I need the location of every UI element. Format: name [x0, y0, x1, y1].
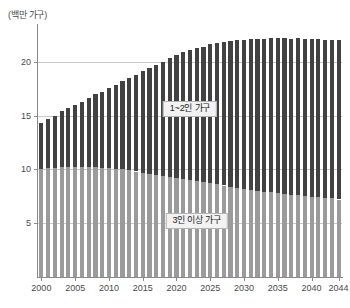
bar-segment-3plus-2034 [269, 192, 273, 277]
bar-segment-3plus-2039 [303, 196, 307, 277]
bar-2010 [107, 24, 111, 277]
bar-segment-1to2-2031 [249, 39, 253, 190]
bar-segment-3plus-2011 [114, 169, 118, 277]
x-axis-line [37, 277, 343, 278]
bar-segment-3plus-2040 [310, 197, 314, 277]
x-tick-mark-2044 [339, 278, 340, 281]
bar-2037 [289, 24, 293, 277]
bar-segment-3plus-2013 [127, 170, 131, 277]
bar-2044 [337, 24, 341, 277]
bar-2029 [235, 24, 239, 277]
bar-2042 [323, 24, 327, 277]
bar-2041 [316, 24, 320, 277]
bar-segment-1to2-2010 [107, 88, 111, 169]
x-tick-label-2010: 2010 [99, 283, 119, 293]
bar-segment-3plus-2002 [53, 168, 57, 277]
bar-2002 [53, 24, 57, 277]
bar-segment-1to2-2003 [60, 111, 64, 167]
bar-2017 [154, 24, 158, 277]
y-tick-label-10: 10 [21, 164, 31, 174]
x-tick-label-2035: 2035 [268, 283, 288, 293]
y-tick-label-5: 5 [26, 218, 31, 228]
bar-2026 [215, 24, 219, 277]
bar-segment-3plus-2044 [337, 200, 341, 278]
x-tick-mark-2025 [210, 278, 211, 281]
bar-2012 [120, 24, 124, 277]
bar-2019 [168, 24, 172, 277]
bar-segment-3plus-2033 [262, 192, 266, 277]
bar-segment-1to2-2034 [269, 38, 273, 192]
bar-segment-3plus-2032 [255, 191, 259, 277]
bar-segment-1to2-2039 [303, 39, 307, 196]
bar-segment-3plus-2014 [134, 172, 138, 278]
bar-segment-1to2-2000 [39, 123, 43, 169]
x-tick-mark-2000 [41, 278, 42, 281]
bar-segment-1to2-2042 [323, 40, 327, 198]
bar-segment-3plus-2000 [39, 169, 43, 277]
x-tick-mark-2040 [312, 278, 313, 281]
bar-segment-1to2-2005 [73, 105, 77, 167]
bar-segment-3plus-2038 [296, 195, 300, 277]
bar-2035 [276, 24, 280, 277]
bar-segment-3plus-2005 [73, 167, 77, 277]
bar-segment-1to2-2030 [242, 40, 246, 189]
bar-segment-1to2-2014 [134, 75, 138, 172]
bar-segment-1to2-2036 [282, 38, 286, 194]
bar-segment-3plus-2035 [276, 193, 280, 277]
bar-segment-3plus-2023 [195, 181, 199, 277]
bar-segment-3plus-2028 [228, 187, 232, 277]
bar-2030 [242, 24, 246, 277]
bar-2024 [201, 24, 205, 277]
x-tick-mark-2015 [143, 278, 144, 281]
bar-segment-1to2-2007 [87, 98, 91, 167]
bar-2038 [296, 24, 300, 277]
bar-segment-1to2-2029 [235, 40, 239, 187]
bar-2031 [249, 24, 253, 277]
bar-segment-3plus-2027 [222, 186, 226, 278]
bar-segment-3plus-2008 [93, 167, 97, 277]
bar-segment-1to2-2012 [120, 81, 124, 169]
bar-segment-1to2-2032 [255, 39, 259, 191]
bar-2039 [303, 24, 307, 277]
x-tick-mark-2035 [278, 278, 279, 281]
bar-2027 [222, 24, 226, 277]
bar-segment-3plus-2025 [208, 183, 212, 277]
bar-segment-1to2-2041 [316, 39, 320, 197]
bar-segment-1to2-2035 [276, 38, 280, 193]
bar-segment-1to2-2008 [93, 94, 97, 167]
bar-segment-1to2-2011 [114, 85, 118, 169]
bar-2008 [93, 24, 97, 277]
bar-2021 [181, 24, 185, 277]
bar-segment-3plus-2042 [323, 198, 327, 277]
x-tick-label-2015: 2015 [133, 283, 153, 293]
bar-segment-3plus-2024 [201, 182, 205, 277]
bar-2020 [174, 24, 178, 277]
bar-segment-1to2-2019 [168, 58, 172, 176]
y-tick-label-20: 20 [21, 57, 31, 67]
bar-segment-3plus-2018 [161, 176, 165, 277]
bar-segment-1to2-2043 [330, 40, 334, 198]
household-projection-chart: (백만 가구) 5101520 3인 이상 가구1~2인 가구 20002005… [0, 0, 350, 308]
bar-2004 [66, 24, 70, 277]
bar-2032 [255, 24, 259, 277]
bar-segment-3plus-2036 [282, 194, 286, 277]
bar-segment-3plus-2007 [87, 167, 91, 277]
bar-segment-1to2-2016 [147, 68, 151, 174]
bar-segment-1to2-2044 [337, 40, 341, 199]
x-tick-label-2005: 2005 [65, 283, 85, 293]
bar-2034 [269, 24, 273, 277]
bar-segment-3plus-2016 [147, 174, 151, 277]
bar-2013 [127, 24, 131, 277]
bar-2022 [188, 24, 192, 277]
bar-segment-3plus-2017 [154, 175, 158, 277]
bar-2043 [330, 24, 334, 277]
bar-segment-1to2-2017 [154, 65, 158, 175]
bar-segment-1to2-2009 [100, 92, 104, 168]
bar-segment-1to2-2027 [222, 42, 226, 185]
bar-segment-3plus-2001 [46, 168, 50, 277]
x-tick-label-2040: 2040 [302, 283, 322, 293]
bar-2018 [161, 24, 165, 277]
bar-2011 [114, 24, 118, 277]
bar-segment-3plus-2010 [107, 168, 111, 277]
x-tick-label-2044: 2044 [329, 283, 349, 293]
